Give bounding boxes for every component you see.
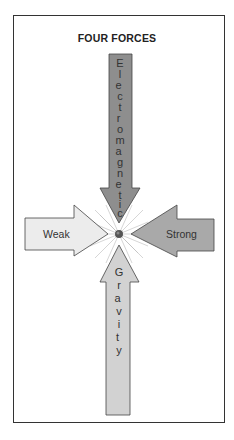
forces-diagram: Ele ctr oma gne tic Weak Strong Gra vit … — [0, 0, 234, 440]
weak-label: Weak — [43, 228, 70, 240]
strong-label: Strong — [166, 228, 197, 240]
